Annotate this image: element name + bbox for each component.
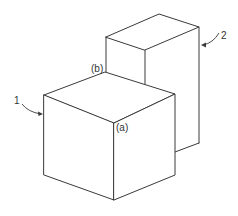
label-vertex-a: (a) xyxy=(116,122,128,133)
leader-1 xyxy=(22,104,43,116)
label-vertex-b: (b) xyxy=(91,63,103,74)
block-2-top-face xyxy=(106,14,199,50)
block-1 xyxy=(44,72,175,200)
diagram-canvas: 1 2 (b) (a) xyxy=(0,0,238,216)
label-block-2: 2 xyxy=(221,30,227,41)
leader-2 xyxy=(201,33,219,48)
arrowhead-1-icon xyxy=(38,112,43,117)
label-block-1: 1 xyxy=(14,95,20,106)
arrowhead-2-icon xyxy=(201,43,206,48)
block-2-bottom-edge xyxy=(175,143,199,152)
